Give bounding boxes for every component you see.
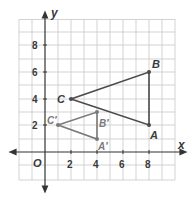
x-tick-label: 2	[67, 159, 73, 170]
grid	[19, 19, 175, 180]
y-tick-label: 8	[32, 40, 38, 51]
vertex-c	[69, 97, 73, 101]
y-axis-up-arrow-icon	[43, 12, 48, 18]
x-tick-label: 8	[145, 159, 151, 170]
x-axis-label: x	[177, 138, 186, 152]
x-tick-label: 4	[93, 159, 99, 170]
vertex-b-prime-label: B′	[99, 118, 109, 129]
vertex-a-prime-label: A′	[97, 141, 108, 152]
vertex-b-prime	[95, 110, 99, 114]
vertex-b	[147, 70, 151, 74]
origin-label: O	[33, 157, 42, 169]
vertex-a	[147, 123, 151, 127]
y-axis-down-arrow-icon	[43, 186, 48, 192]
x-axis-left-arrow-icon	[10, 150, 16, 155]
x-tick-label: 6	[119, 159, 125, 170]
vertex-b-label: B	[152, 58, 160, 70]
y-tick-label: 4	[32, 94, 38, 105]
vertex-c-prime-label: C′	[47, 115, 57, 126]
y-tick-label: 6	[32, 67, 38, 78]
y-axis-label: y	[50, 6, 59, 20]
coordinate-plane: y x O 2 4 6 8 2 4 6 8 A B C A′ B′ C′	[0, 0, 194, 199]
triangle-a-prime-b-prime-c-prime: A′ B′ C′	[47, 110, 109, 152]
vertex-a-label: A	[149, 129, 158, 141]
y-tick-label: 2	[32, 120, 38, 131]
vertex-c-label: C	[57, 93, 66, 105]
